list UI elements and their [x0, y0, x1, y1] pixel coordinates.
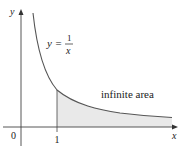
origin-label: 0 — [11, 130, 16, 141]
function-numerator: 1 — [67, 33, 72, 43]
function-denominator: x — [65, 45, 71, 56]
y-axis-label: y — [9, 6, 15, 17]
x-axis-arrow-icon — [172, 125, 178, 130]
tick-label-1: 1 — [55, 134, 60, 145]
curve-1-over-x — [33, 13, 172, 118]
x-axis-label: x — [171, 130, 177, 141]
hyperbola-diagram: y x 0 1 y = 1 x infinite area — [0, 0, 183, 151]
region-label: infinite area — [101, 88, 154, 100]
function-lhs: y = — [46, 37, 62, 49]
y-axis-arrow-icon — [19, 9, 24, 15]
